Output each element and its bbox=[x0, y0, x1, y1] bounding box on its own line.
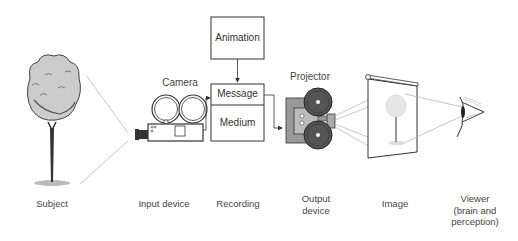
message-label: Message bbox=[211, 88, 264, 99]
stage-output-line2: device bbox=[291, 205, 341, 217]
stage-viewer-line1: Viewer bbox=[443, 193, 507, 205]
sight-line bbox=[86, 75, 128, 133]
stage-viewer-line3: perception) bbox=[443, 216, 507, 228]
tree-icon bbox=[27, 55, 80, 186]
stage-output-line1: Output bbox=[291, 193, 341, 205]
eye-icon bbox=[457, 97, 484, 137]
animation-label: Animation bbox=[211, 32, 264, 43]
stage-image-label: Image bbox=[370, 198, 420, 210]
camera-icon bbox=[135, 95, 207, 141]
stage-input-label: Input device bbox=[131, 198, 197, 210]
stage-subject-label: Subject bbox=[27, 198, 77, 210]
camera-label: Camera bbox=[150, 77, 210, 89]
projector-label: Projector bbox=[280, 71, 340, 83]
screen-icon bbox=[366, 75, 419, 159]
projector-icon bbox=[286, 88, 335, 149]
medium-label: Medium bbox=[211, 117, 264, 128]
stage-viewer-label: Viewer (brain and perception) bbox=[443, 193, 507, 228]
stage-recording-label: Recording bbox=[210, 198, 266, 210]
message-to-projector-arrow bbox=[264, 95, 282, 128]
stage-output-label: Output device bbox=[291, 193, 341, 216]
sight-line bbox=[80, 141, 128, 184]
stage-viewer-line2: (brain and bbox=[443, 205, 507, 217]
